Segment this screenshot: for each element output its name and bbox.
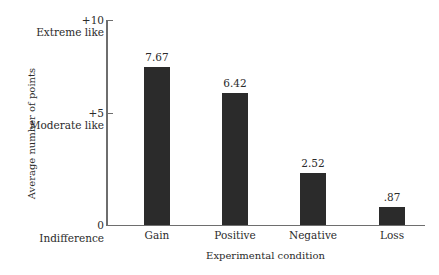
x-category-label-negative: Negative [273,229,353,241]
bar-value-positive: 6.42 [205,77,265,89]
bar-value-gain: 7.67 [127,51,187,63]
bar-loss [379,207,405,225]
bar-value-loss: .87 [362,191,422,203]
plot-area: 7.67 Gain 6.42 Positive 2.52 Negative .8… [0,0,439,275]
bar-negative [300,173,326,225]
bar-positive [222,93,248,225]
bar-value-negative: 2.52 [283,157,343,169]
x-category-label-loss: Loss [352,229,432,241]
bar-chart-figure: Average number of points +10 Extreme lik… [0,0,439,275]
x-axis-title: Experimental condition [106,250,425,262]
x-category-label-gain: Gain [117,229,197,241]
bar-gain [144,67,170,225]
x-category-label-positive: Positive [195,229,275,241]
